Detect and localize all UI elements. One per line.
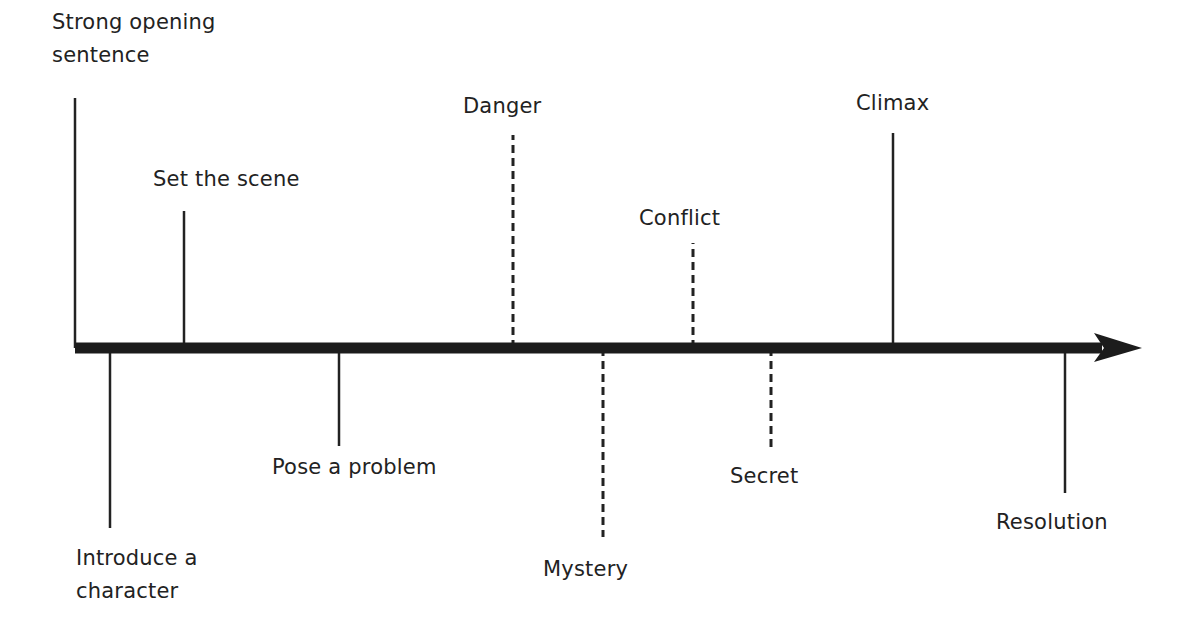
introduce-a-character-label: Introduce a character (76, 542, 198, 608)
set-the-scene-label: Set the scene (153, 163, 300, 196)
conflict-label: Conflict (639, 202, 720, 235)
mystery-label: Mystery (543, 553, 628, 586)
climax-label: Climax (856, 87, 929, 120)
pose-a-problem-label: Pose a problem (272, 451, 437, 484)
secret-label: Secret (730, 460, 798, 493)
resolution-label: Resolution (996, 506, 1108, 539)
timeline-axis (75, 333, 1142, 362)
danger-label: Danger (463, 90, 541, 123)
strong-opening-sentence-label: Strong opening sentence (52, 6, 216, 72)
